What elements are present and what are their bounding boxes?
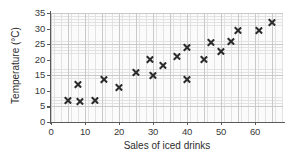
x-tick [221, 122, 222, 125]
y-tick-label: 10 [26, 85, 45, 96]
x-tick [85, 122, 86, 125]
y-tick-label: 5 [26, 100, 45, 111]
x-tick-label: 40 [174, 126, 200, 137]
x-tick-label: 0 [38, 126, 64, 137]
x-tick [153, 122, 154, 125]
x-tick-label: 20 [106, 126, 132, 137]
y-tick [47, 44, 50, 45]
y-tick [47, 75, 50, 76]
y-tick [47, 13, 50, 14]
x-tick [51, 122, 52, 125]
y-tick-label: 35 [26, 7, 45, 18]
x-tick [187, 122, 188, 125]
x-tick [255, 122, 256, 125]
x-tick-label: 10 [72, 126, 98, 137]
x-tick-label: 60 [242, 126, 268, 137]
x-tick [119, 122, 120, 125]
y-tick-label: 0 [26, 116, 45, 127]
y-tick-label: 15 [26, 69, 45, 80]
y-tick [47, 91, 50, 92]
grid-major [51, 13, 283, 122]
y-tick-label: 25 [26, 38, 45, 49]
scatter-chart: 0102030405060 05101520253035 Sales of ic… [0, 0, 286, 165]
y-tick [47, 60, 50, 61]
y-tick-label: 30 [26, 23, 45, 34]
y-axis-label: Temperature (°C) [10, 11, 21, 121]
y-tick-label: 20 [26, 54, 45, 65]
y-tick [47, 29, 50, 30]
x-axis-label: Sales of iced drinks [51, 140, 283, 151]
x-tick-label: 50 [208, 126, 234, 137]
plot-area [51, 13, 283, 122]
y-axis-line [50, 11, 51, 124]
y-tick [47, 122, 50, 123]
y-tick [47, 106, 50, 107]
x-tick-label: 30 [140, 126, 166, 137]
